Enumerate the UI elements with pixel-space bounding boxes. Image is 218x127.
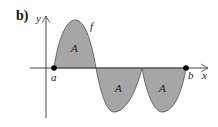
panel-label: b)	[16, 8, 29, 24]
point-a	[51, 65, 57, 71]
point-a-label: a	[51, 71, 57, 83]
region-label-2: A	[114, 82, 122, 94]
x-axis-label: x	[201, 69, 207, 81]
region-label-1: A	[70, 42, 78, 54]
function-label: f	[90, 20, 95, 32]
area-diagram: b) y x f a b A A A	[0, 0, 218, 127]
y-axis-label: y	[35, 12, 41, 24]
region-label-3: A	[158, 82, 166, 94]
point-b-label: b	[188, 69, 194, 81]
